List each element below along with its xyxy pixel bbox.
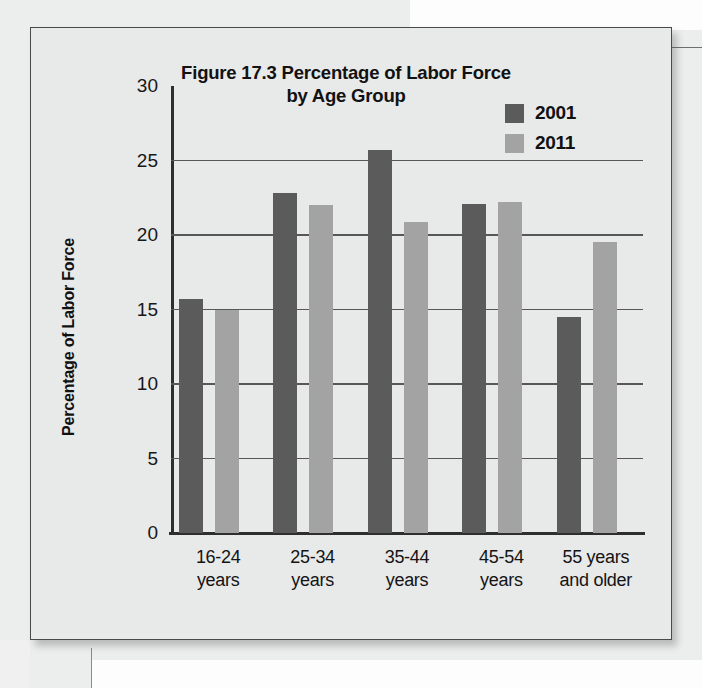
y-axis-title: Percentage of Labor Force <box>60 207 78 467</box>
bar-2011-55-years-and-older[interactable] <box>593 242 617 533</box>
y-axis-tick-label: 10 <box>137 373 158 395</box>
y-axis-tick-label: 30 <box>137 75 158 97</box>
bar-chart: Figure 17.3 Percentage of Labor Force by… <box>31 28 671 639</box>
x-axis-tick-label: 35-44years <box>357 546 457 592</box>
y-axis-tick-label: 0 <box>147 522 158 544</box>
page-rule-line <box>672 47 702 48</box>
x-axis-tick-label: 55 yearsand older <box>546 546 646 592</box>
x-axis-tick-label-line: and older <box>560 570 632 590</box>
bar-2001-25-34-years[interactable] <box>273 193 297 533</box>
x-axis-tick-label-line: 35-44 <box>385 547 430 567</box>
bar-group: 45-54years <box>454 86 548 533</box>
bar-2001-16-24-years[interactable] <box>179 299 203 533</box>
x-axis-tick-label: 45-54years <box>451 546 551 592</box>
x-axis-tick-label-line: years <box>197 570 240 590</box>
y-axis-tick-label: 15 <box>137 299 158 321</box>
bar-group: 35-44years <box>360 86 454 533</box>
bar-2011-25-34-years[interactable] <box>309 205 333 533</box>
x-axis-tick-label-line: 16-24 <box>196 547 241 567</box>
bar-2001-55-years-and-older[interactable] <box>557 317 581 533</box>
page-gutter-line <box>91 648 92 688</box>
x-axis-tick-label: 16-24years <box>168 546 268 592</box>
bar-2011-35-44-years[interactable] <box>404 222 428 533</box>
bar-2001-35-44-years[interactable] <box>368 150 392 533</box>
y-axis-tick-label: 20 <box>137 224 158 246</box>
x-axis-tick-label-line: 55 years <box>562 547 629 567</box>
x-axis-tick-label-line: years <box>291 570 334 590</box>
page-margin-top-right <box>410 0 702 30</box>
bar-group: 55 yearsand older <box>549 86 643 533</box>
figure-frame: Figure 17.3 Percentage of Labor Force by… <box>30 27 672 640</box>
page-margin-bottom <box>92 660 702 688</box>
plot-area: 051015202530 16-24years25-34years35-44ye… <box>171 86 643 533</box>
bar-2001-45-54-years[interactable] <box>462 204 486 533</box>
x-axis-tick-label-line: years <box>480 570 523 590</box>
bar-group: 16-24years <box>171 86 265 533</box>
y-axis-tick-label: 25 <box>137 150 158 172</box>
x-axis-tick-label-line: 45-54 <box>479 547 524 567</box>
bar-2011-16-24-years[interactable] <box>215 310 239 534</box>
x-axis-tick-label-line: years <box>386 570 429 590</box>
bar-2011-45-54-years[interactable] <box>498 202 522 533</box>
chart-title-line-1: Figure 17.3 Percentage of Labor Force <box>181 62 511 83</box>
x-axis-tick-label-line: 25-34 <box>290 547 335 567</box>
bar-group: 25-34years <box>265 86 359 533</box>
x-axis-tick-label: 25-34years <box>263 546 363 592</box>
page-margin-left <box>0 640 30 688</box>
y-axis-tick-label: 5 <box>147 448 158 470</box>
